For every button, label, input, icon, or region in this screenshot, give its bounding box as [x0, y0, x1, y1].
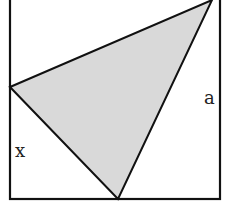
geometry-diagram: a x	[0, 0, 231, 201]
label-x: x	[15, 140, 25, 161]
label-a: a	[204, 87, 215, 108]
shaded-triangle	[10, 0, 212, 199]
